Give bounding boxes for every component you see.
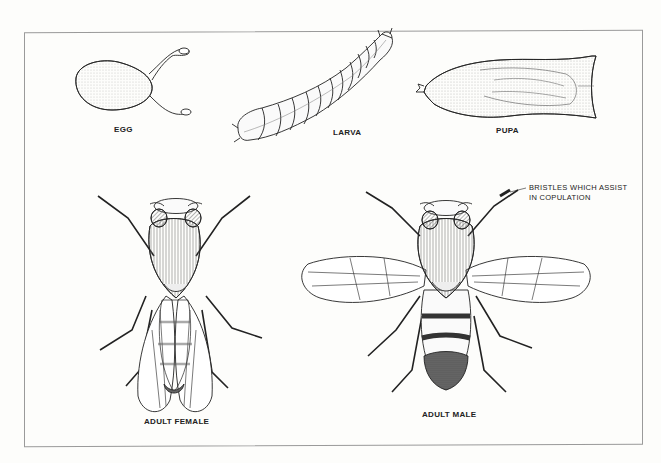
label-adult-female: ADULT FEMALE: [144, 417, 209, 426]
callout-bristles: BRISTLES WHICH ASSIST IN COPULATION: [529, 183, 627, 203]
adult-male-drawing: [302, 188, 590, 392]
label-adult-male: ADULT MALE: [422, 410, 476, 419]
pupa-drawing: [416, 56, 596, 118]
callout-line-2: IN COPULATION: [529, 193, 627, 203]
callout-line-1: BRISTLES WHICH ASSIST: [529, 183, 627, 193]
larva-drawing: [232, 28, 393, 142]
label-egg: EGG: [114, 125, 133, 134]
label-pupa: PUPA: [496, 126, 519, 135]
egg-drawing: [76, 48, 191, 115]
life-cycle-illustration: [0, 0, 661, 463]
adult-female-drawing: [98, 196, 262, 412]
label-larva: LARVA: [333, 128, 361, 137]
